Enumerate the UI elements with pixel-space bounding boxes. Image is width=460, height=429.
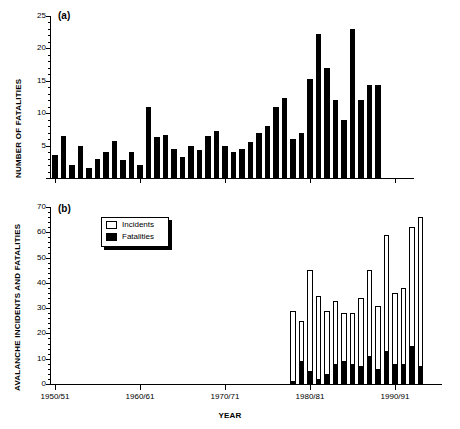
panel-b-x-tick <box>395 385 396 390</box>
panel-b-y-tick <box>46 207 50 208</box>
bar <box>129 152 134 178</box>
panel-a-y-minor-tick <box>48 29 50 30</box>
panel-b-y-minor-tick <box>48 242 50 243</box>
bar-segment-incidents <box>316 296 321 385</box>
bar <box>137 165 142 178</box>
panel-a-y-minor-tick <box>48 172 50 173</box>
panel-b-y-axis <box>50 207 51 384</box>
panel-b-x-tick <box>140 385 141 390</box>
panel-b-y-tick-label: 20 <box>22 329 46 337</box>
legend: Incidents Fatalities <box>101 217 169 247</box>
panel-a-y-tick-label: 5 <box>22 142 46 150</box>
panel-b-y-minor-tick <box>48 237 50 238</box>
panel-b-y-tick-label: 40 <box>22 279 46 287</box>
panel-a: (a) NUMBER OF FATALITIES 510152025 <box>0 0 460 195</box>
panel-a-y-tick-label: 10 <box>22 109 46 117</box>
bar <box>367 85 372 178</box>
panel-a-y-tick <box>46 16 50 17</box>
bar <box>188 146 193 178</box>
figure-avalanche-incidents-fatalities: (a) NUMBER OF FATALITIES 510152025 (b) A… <box>0 0 460 429</box>
panel-a-y-minor-tick <box>48 107 50 108</box>
bar <box>299 133 304 178</box>
panel-b-y-minor-tick <box>48 318 50 319</box>
bar <box>146 107 151 178</box>
panel-b-plot-area: 0102030405060701950/511960/611970/711980… <box>0 195 460 429</box>
bar <box>265 126 270 178</box>
legend-label-incidents: Incidents <box>122 221 154 229</box>
bar <box>222 146 227 178</box>
panel-b-y-minor-tick <box>48 349 50 350</box>
panel-a-y-minor-tick <box>48 22 50 23</box>
panel-b-y-minor-tick <box>48 369 50 370</box>
panel-b-y-tick <box>46 333 50 334</box>
bar <box>231 152 236 178</box>
panel-b-y-tick-label: 0 <box>22 380 46 388</box>
bar-stack <box>367 270 372 384</box>
panel-a-y-tick <box>46 113 50 114</box>
panel-b-y-minor-tick <box>48 217 50 218</box>
bar <box>248 142 253 178</box>
bar <box>333 100 338 178</box>
bar-stack <box>316 296 321 385</box>
bar-segment-incidents <box>290 311 295 384</box>
panel-b-y-tick <box>46 359 50 360</box>
legend-row-fatalities: Fatalities <box>106 231 164 242</box>
panel-a-x-tick <box>225 179 226 183</box>
panel-b-x-tick <box>310 385 311 390</box>
panel-b-y-minor-tick <box>48 328 50 329</box>
panel-b-y-tick <box>46 232 50 233</box>
bar <box>214 131 219 178</box>
panel-a-y-tick <box>46 178 50 179</box>
panel-a-y-axis <box>50 16 51 178</box>
bar-stack <box>358 298 363 384</box>
bar-stack <box>401 288 406 384</box>
panel-b: (b) AVALANCHE INCIDENTS AND FATALITIES 0… <box>0 195 460 429</box>
bar-stack <box>307 270 312 384</box>
panel-b-y-minor-tick <box>48 268 50 269</box>
bar-stack <box>384 235 389 384</box>
panel-a-y-minor-tick <box>48 126 50 127</box>
bar-segment-fatalities <box>375 369 380 384</box>
bar-segment-fatalities <box>358 366 363 384</box>
bar-segment-incidents <box>418 217 423 384</box>
bar <box>324 68 329 178</box>
panel-a-y-tick <box>46 48 50 49</box>
panel-a-x-tick <box>140 179 141 183</box>
bar-segment-fatalities <box>290 381 295 384</box>
panel-b-y-tick-label: 60 <box>22 228 46 236</box>
panel-a-x-tick <box>55 179 56 183</box>
bar-segment-fatalities <box>401 364 406 384</box>
panel-b-x-tick <box>55 385 56 390</box>
bar <box>256 133 261 178</box>
bar-stack <box>299 321 304 384</box>
panel-b-y-minor-tick <box>48 354 50 355</box>
panel-a-y-minor-tick <box>48 55 50 56</box>
bar <box>375 85 380 178</box>
bar <box>95 159 100 178</box>
panel-b-y-minor-tick <box>48 263 50 264</box>
panel-b-y-minor-tick <box>48 344 50 345</box>
panel-b-y-tick <box>46 283 50 284</box>
panel-a-y-tick-label: 15 <box>22 77 46 85</box>
panel-a-y-tick-label: 25 <box>22 12 46 20</box>
panel-b-x-tick-label: 1950/51 <box>25 393 85 401</box>
panel-a-y-minor-tick <box>48 152 50 153</box>
panel-a-y-tick-label: 20 <box>22 44 46 52</box>
bar-segment-fatalities <box>333 364 338 384</box>
legend-label-fatalities: Fatalities <box>122 233 154 241</box>
panel-b-y-tick <box>46 308 50 309</box>
panel-a-y-minor-tick <box>48 35 50 36</box>
bar-segment-fatalities <box>409 346 414 384</box>
bar-segment-fatalities <box>392 364 397 384</box>
panel-a-x-tick <box>310 179 311 183</box>
bar <box>103 152 108 178</box>
panel-a-x-tick <box>395 179 396 183</box>
bar <box>290 139 295 178</box>
panel-b-y-tick-label: 50 <box>22 254 46 262</box>
panel-b-y-minor-tick <box>48 298 50 299</box>
panel-b-x-tick-label: 1960/61 <box>110 393 170 401</box>
panel-a-y-minor-tick <box>48 42 50 43</box>
panel-b-y-minor-tick <box>48 253 50 254</box>
bar <box>282 98 287 178</box>
panel-b-x-axis <box>50 384 442 385</box>
